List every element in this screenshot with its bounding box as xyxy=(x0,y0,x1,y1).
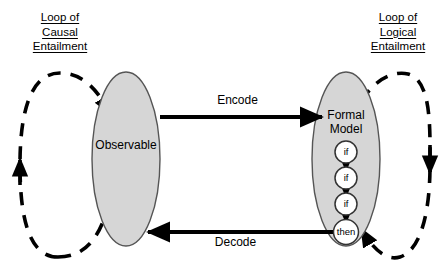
loop-title-logical-line-2: Logical xyxy=(352,25,444,40)
formal-model-label-line-2: Model xyxy=(312,122,380,136)
formal-model-node-label: Formal Model xyxy=(312,108,380,136)
rule-then-label: then xyxy=(331,227,361,237)
diagram-canvas: Loop of Causal Entailment Loop of Logica… xyxy=(0,0,448,275)
loop-title-causal: Loop of Causal Entailment xyxy=(6,10,114,54)
encode-edge-label: Encode xyxy=(185,93,290,107)
observable-node-label: Observable xyxy=(86,138,166,152)
observable-node[interactable] xyxy=(92,72,160,246)
loop-title-logical-line-1: Loop of xyxy=(352,10,444,25)
loop-title-logical-line-3: Entailment xyxy=(352,39,444,54)
loop-title-causal-line-1: Loop of xyxy=(6,10,114,25)
decode-edge-label: Decode xyxy=(183,235,288,249)
formal-model-label-line-1: Formal xyxy=(312,108,380,122)
rule-if-2-label: if xyxy=(331,173,361,183)
causal-loop-path-lower xyxy=(58,214,106,257)
rule-if-3-label: if xyxy=(331,199,361,209)
rule-if-1-label: if xyxy=(331,147,361,157)
loop-title-causal-line-2: Causal xyxy=(6,25,114,40)
loop-title-causal-line-3: Entailment xyxy=(6,39,114,54)
loop-title-logical: Loop of Logical Entailment xyxy=(352,10,444,54)
